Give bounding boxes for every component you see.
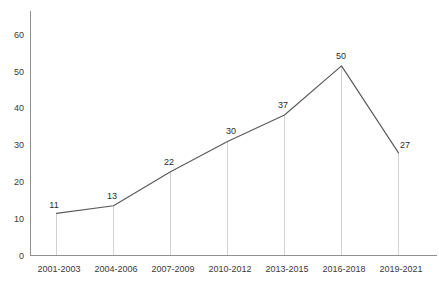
x-tick-label-2010-2012: 2010-2012 — [208, 264, 251, 274]
chart-canvas: 0 10 20 30 40 50 60 2001-2003 2004-2006 … — [0, 0, 439, 289]
x-tick-label-2019-2021: 2019-2021 — [379, 264, 422, 274]
y-tick-label-20: 20 — [14, 177, 24, 187]
x-tick-label-2001-2003: 2001-2003 — [37, 264, 80, 274]
data-label-2001-2003: 11 — [49, 200, 58, 210]
x-tick-label-2016-2018: 2016-2018 — [322, 264, 365, 274]
x-axis-ticks: 2001-2003 2004-2006 2007-2009 2010-2012 … — [37, 264, 422, 274]
chart-background — [0, 0, 439, 289]
line-chart: 0 10 20 30 40 50 60 2001-2003 2004-2006 … — [0, 0, 439, 289]
data-label-2016-2018: 50 — [336, 51, 346, 61]
y-tick-label-50: 50 — [14, 67, 24, 77]
y-tick-label-40: 40 — [14, 103, 24, 113]
y-tick-label-10: 10 — [14, 214, 24, 224]
x-tick-label-2013-2015: 2013-2015 — [265, 264, 308, 274]
y-tick-label-0: 0 — [19, 251, 24, 261]
x-tick-label-2007-2009: 2007-2009 — [151, 264, 194, 274]
data-label-2007-2009: 22 — [164, 157, 174, 167]
y-tick-label-60: 60 — [14, 30, 24, 40]
data-label-2004-2006: 13 — [107, 191, 117, 201]
data-label-2019-2021: 27 — [400, 140, 410, 150]
data-label-2010-2012: 30 — [226, 126, 236, 136]
x-tick-label-2004-2006: 2004-2006 — [94, 264, 137, 274]
y-tick-label-30: 30 — [14, 140, 24, 150]
data-label-2013-2015: 37 — [278, 100, 288, 110]
